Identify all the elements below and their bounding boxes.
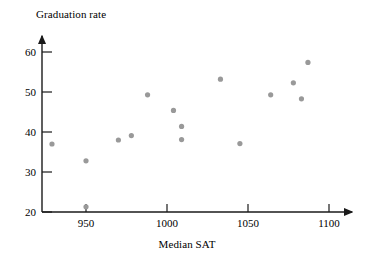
data-point bbox=[218, 77, 223, 82]
data-point bbox=[237, 141, 242, 146]
x-axis-tick-label: 1100 bbox=[318, 217, 340, 229]
data-points-layer bbox=[49, 60, 310, 210]
y-axis-tick-label: 60 bbox=[10, 46, 36, 58]
data-point bbox=[305, 60, 310, 65]
y-axis-title: Graduation rate bbox=[36, 8, 106, 20]
x-axis-tick-label: 1050 bbox=[237, 217, 259, 229]
data-point bbox=[116, 137, 121, 142]
y-axis-ticks bbox=[42, 52, 52, 212]
data-point bbox=[129, 133, 134, 138]
data-point bbox=[291, 80, 296, 85]
x-axis-ticks bbox=[86, 204, 329, 212]
scatter-plot-figure: Graduation rate Median SAT 2030405060950… bbox=[0, 0, 374, 265]
data-point bbox=[49, 141, 54, 146]
data-point bbox=[83, 158, 88, 163]
data-point bbox=[299, 96, 304, 101]
y-axis-tick-label: 20 bbox=[10, 206, 36, 218]
x-axis-tick-label: 1000 bbox=[156, 217, 178, 229]
data-point bbox=[179, 124, 184, 129]
data-point bbox=[179, 137, 184, 142]
x-axis-tick-label: 950 bbox=[78, 217, 95, 229]
data-point bbox=[268, 92, 273, 97]
y-axis-tick-label: 50 bbox=[10, 86, 36, 98]
data-point bbox=[171, 108, 176, 113]
y-axis-tick-label: 40 bbox=[10, 126, 36, 138]
data-point bbox=[83, 204, 88, 209]
data-point bbox=[145, 92, 150, 97]
x-axis-title: Median SAT bbox=[0, 238, 374, 250]
y-axis-tick-label: 30 bbox=[10, 166, 36, 178]
